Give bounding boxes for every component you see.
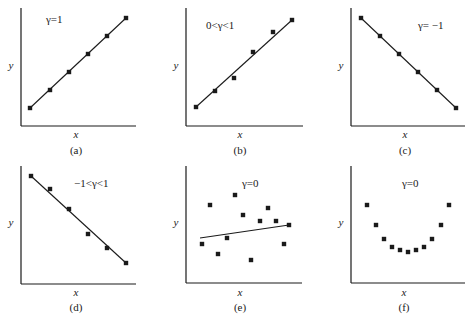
panel-f: γ=0yx(f) [338,166,465,314]
data-point [28,106,32,110]
data-point [251,50,255,54]
x-axis-label: x [237,286,243,298]
data-point [416,70,420,74]
panel-caption: (b) [234,144,247,157]
correlation-label: γ= −1 [417,19,444,31]
panel-caption: (c) [399,144,412,157]
y-axis-label: y [173,59,179,71]
data-point [86,232,90,236]
correlation-label: γ=0 [241,177,259,189]
regression-line [200,225,289,238]
y-axis-label: y [173,216,179,228]
data-point [287,223,291,227]
y-axis-label: y [8,59,14,71]
data-point [282,242,286,246]
data-point [124,16,128,20]
data-point [271,30,275,34]
x-axis-label: x [73,286,79,298]
data-point [208,203,212,207]
data-point [422,245,426,249]
data-point [67,207,71,211]
data-point [439,223,443,227]
regression-line [361,18,456,108]
data-point [274,219,278,223]
y-axis-label: y [338,216,344,228]
panel-caption: (d) [70,301,83,314]
correlation-label: γ=1 [45,13,63,25]
data-point [124,261,128,265]
regression-line [31,176,126,263]
correlation-label: 0<γ<1 [206,19,234,31]
data-point [390,245,394,249]
panel-a: γ=1yx(a) [8,8,136,157]
data-point [29,174,33,178]
data-point [249,258,253,262]
data-point [406,250,410,254]
x-axis-label: x [237,128,243,140]
data-point [447,203,451,207]
data-point [290,18,294,22]
correlation-figure: γ=1yx(a)0<γ<1yx(b)γ= −1yx(c)−1<γ<1yx(d)γ… [0,0,470,324]
data-point [48,88,52,92]
data-point [378,34,382,38]
data-point [398,248,402,252]
data-point [359,16,363,20]
data-point [414,248,418,252]
panel-e: γ=0yx(e) [173,166,302,314]
panel-caption: (a) [70,144,83,157]
panel-d: −1<γ<1yx(d) [8,166,136,314]
data-point [86,52,90,56]
data-point [216,252,220,256]
data-point [105,246,109,250]
data-point [374,223,378,227]
x-axis-label: x [402,128,408,140]
panel-b: 0<γ<1yx(b) [173,8,303,157]
data-point [454,106,458,110]
data-point [397,52,401,56]
x-axis-label: x [73,128,79,140]
data-point [382,237,386,241]
x-axis-label: x [401,286,407,298]
data-point [258,219,262,223]
data-point [241,213,245,217]
correlation-label: −1<γ<1 [74,177,108,189]
y-axis-label: y [8,216,14,228]
data-point [48,187,52,191]
data-point [266,206,270,210]
data-point [200,242,204,246]
data-point [435,88,439,92]
data-point [365,203,369,207]
data-point [194,105,198,109]
data-point [233,193,237,197]
panel-caption: (f) [399,301,410,314]
data-point [213,89,217,93]
data-point [232,76,236,80]
y-axis-label: y [338,59,344,71]
data-point [225,236,229,240]
regression-line [30,18,126,108]
data-point [430,237,434,241]
correlation-label: γ=0 [401,177,419,189]
panel-caption: (e) [234,301,247,314]
data-point [105,34,109,38]
panel-c: γ= −1yx(c) [338,8,465,157]
data-point [67,70,71,74]
regression-line [196,20,292,107]
